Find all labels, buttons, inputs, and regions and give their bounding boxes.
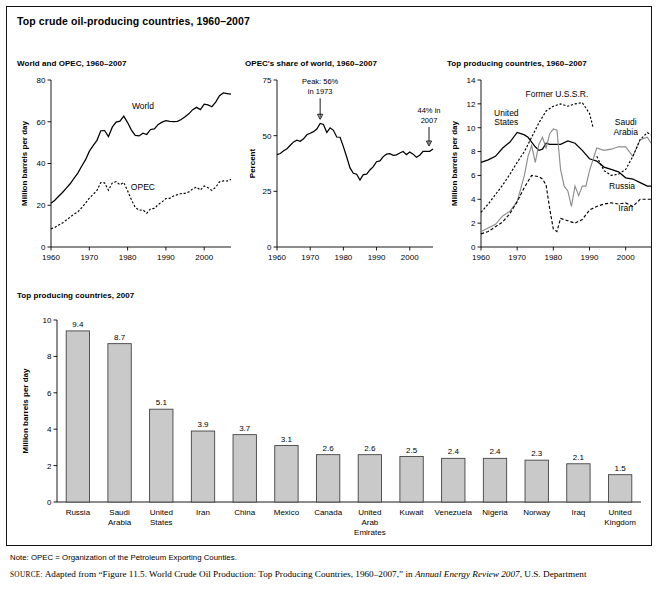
bar-value-label: 2.1	[573, 453, 585, 462]
y-tick-label: 8	[471, 147, 476, 156]
category-label: Nigeria	[482, 508, 508, 517]
x-tick-label: 1970	[508, 253, 526, 262]
bar-value-label: 2.6	[323, 444, 335, 453]
bar[interactable]	[400, 457, 423, 503]
series-label: World	[132, 101, 154, 111]
bar-value-label: 1.5	[615, 464, 627, 473]
series-label: Russia	[609, 181, 635, 191]
note-opec-definition: Note: OPEC = Organization of the Petrole…	[10, 553, 654, 562]
bar[interactable]	[275, 446, 298, 502]
category-label: UnitedStates	[150, 508, 173, 527]
bar-value-label: 2.3	[531, 449, 543, 458]
source-text-part1: Adapted from “Figure 11.5. World Crude O…	[43, 569, 415, 579]
source-line: SOURCE: Adapted from “Figure 11.5. World…	[10, 569, 654, 579]
x-tick-label: 1990	[581, 253, 599, 262]
source-publication-title: Annual Energy Review 2007	[415, 569, 520, 579]
chart-top-producers-timeseries: 0246810121419601970198019902000Million b…	[447, 70, 659, 275]
y-tick-label: 4	[471, 195, 476, 204]
bar[interactable]	[233, 435, 256, 502]
y-tick-label: 75	[263, 76, 272, 85]
bar[interactable]	[442, 458, 465, 502]
panel-title-opec-share: OPEC's share of world, 1960–2007	[245, 59, 441, 68]
y-tick-label: 0	[41, 243, 46, 252]
category-label: Canada	[314, 508, 343, 517]
source-label: SOURCE:	[10, 570, 43, 579]
y-tick-label: 25	[263, 187, 272, 196]
y-tick-label: 10	[467, 124, 476, 133]
x-tick-label: 1960	[268, 253, 286, 262]
bar[interactable]	[66, 331, 89, 502]
y-tick-label: 10	[43, 316, 52, 325]
figure-title: Top crude oil-producing countries, 1960–…	[17, 15, 250, 27]
source-text-part2: , U.S. Department	[520, 569, 587, 579]
series-label: SaudiArabia	[613, 117, 638, 137]
category-label: Iraq	[572, 508, 586, 517]
y-tick-label: 40	[37, 159, 46, 168]
y-axis-title: Million barrels per day	[21, 368, 30, 453]
bar[interactable]	[108, 344, 131, 502]
bar-value-label: 2.6	[364, 444, 376, 453]
series-line-united-states	[481, 132, 651, 186]
bar[interactable]	[608, 475, 631, 502]
chart-top-producers-2007: 0246810Million barrels per day9.4Russia8…	[17, 302, 653, 550]
x-tick-label: 1960	[472, 253, 490, 262]
category-label: SaudiArabia	[108, 508, 132, 527]
series-label: OPEC	[131, 182, 155, 192]
x-tick-label: 1960	[42, 253, 60, 262]
bar[interactable]	[483, 458, 506, 502]
category-label: Iran	[196, 508, 210, 517]
bar[interactable]	[191, 431, 214, 502]
bar-value-label: 2.4	[448, 447, 460, 456]
chart-annotation: Peak: 56%in 1973	[302, 77, 339, 96]
bar[interactable]	[525, 460, 548, 502]
category-label: UnitedArabEmirates	[354, 508, 386, 537]
category-label: Venezuela	[435, 508, 473, 517]
y-tick-label: 12	[467, 100, 476, 109]
y-tick-label: 14	[467, 76, 476, 85]
y-tick-label: 20	[37, 201, 46, 210]
y-axis-title: Percent	[248, 148, 257, 178]
bar-value-label: 3.1	[281, 435, 293, 444]
y-tick-label: 6	[47, 389, 52, 398]
bar[interactable]	[150, 409, 173, 502]
x-tick-label: 1980	[119, 253, 137, 262]
x-tick-label: 2000	[401, 253, 419, 262]
y-tick-label: 4	[47, 425, 52, 434]
bar[interactable]	[316, 455, 339, 502]
y-tick-label: 60	[37, 118, 46, 127]
category-label: China	[234, 508, 255, 517]
y-tick-label: 8	[47, 352, 52, 361]
x-tick-label: 1970	[301, 253, 319, 262]
category-label: Kuwait	[400, 508, 425, 517]
panel-title-world-opec: World and OPEC, 1960–2007	[17, 59, 239, 68]
y-tick-label: 80	[37, 76, 46, 85]
figure-frame: Top crude oil-producing countries, 1960–…	[6, 6, 652, 546]
y-tick-label: 2	[471, 219, 476, 228]
y-tick-label: 0	[471, 243, 476, 252]
panel-title-top-producers-ts: Top producing countries, 1960–2007	[447, 59, 659, 68]
x-tick-label: 1990	[368, 253, 386, 262]
bar-value-label: 3.9	[197, 420, 209, 429]
bar[interactable]	[567, 464, 590, 502]
x-tick-label: 1980	[544, 253, 562, 262]
category-label: UnitedKingdom	[604, 508, 636, 527]
panel-title-top-producers-2007: Top producing countries, 2007	[17, 291, 653, 300]
panel-opec-share: OPEC's share of world, 1960–2007 0255075…	[245, 59, 441, 275]
chart-world-and-opec: 02040608019601970198019902000Million bar…	[17, 70, 239, 275]
series-line-opec-share-of-world	[277, 123, 433, 180]
x-tick-label: 1980	[334, 253, 352, 262]
category-label: Mexico	[274, 508, 300, 517]
panel-world-and-opec: World and OPEC, 1960–2007 02040608019601…	[17, 59, 239, 275]
figure-notes: Note: OPEC = Organization of the Petrole…	[10, 553, 654, 579]
bar-value-label: 2.5	[406, 446, 418, 455]
bar[interactable]	[358, 455, 381, 502]
x-tick-label: 2000	[195, 253, 213, 262]
y-axis-title: Million barrels per day	[450, 120, 459, 205]
chart-annotation: 44% in2007	[418, 106, 441, 125]
y-tick-label: 0	[267, 243, 272, 252]
figure-page: Top crude oil-producing countries, 1960–…	[0, 0, 660, 601]
y-tick-label: 50	[263, 132, 272, 141]
x-tick-label: 1990	[157, 253, 175, 262]
series-label: UnitedStates	[494, 108, 519, 128]
panel-top-producers-2007: Top producing countries, 2007 0246810Mil…	[17, 291, 653, 550]
